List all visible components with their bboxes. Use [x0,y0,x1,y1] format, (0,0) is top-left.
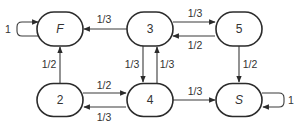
arrow-icon [17,22,38,36]
transition-S-to-S: 1 [262,93,294,107]
state-label: 3 [147,22,154,36]
transition-probability-label: 1 [288,94,294,106]
state-node-2: 2 [37,84,83,117]
state-label: 4 [147,93,154,107]
transition-3-to-F: 1/3 [84,13,127,29]
transition-probability-label: 1/2 [243,58,258,70]
transition-5-to-S: 1/2 [239,46,257,82]
state-node-5: 5 [216,12,262,46]
state-node-F: F [37,12,83,46]
state-label: 5 [236,22,243,36]
transition-probability-label: 1/3 [160,58,175,70]
transition-probability-label: 1/3 [97,13,112,25]
arrow-icon [262,93,284,107]
transition-probability-label: 1/3 [97,111,112,123]
transition-probability-label: 1/3 [188,7,203,19]
state-label: S [235,93,243,107]
state-label: 2 [57,93,64,107]
transition-probability-label: 1/2 [42,58,57,70]
transition-3-to-5: 1/3 [173,7,215,22]
transition-4-to-2: 1/3 [84,107,126,123]
transition-probability-label: 1/3 [125,58,140,70]
transition-probability-label: 1 [5,23,11,35]
transition-2-to-F: 1/2 [42,47,60,83]
state-diagram: 11/31/31/21/31/31/21/21/31/21/31 F3524S [0,0,308,128]
state-label: F [56,22,64,36]
transition-3-to-4: 1/3 [125,46,143,82]
transition-probability-label: 1/2 [188,39,203,51]
transition-probability-label: 1/3 [188,85,203,97]
transition-2-to-4: 1/2 [83,79,126,93]
transition-4-to-S: 1/3 [173,85,215,100]
state-node-S: S [216,84,262,117]
transition-4-to-3: 1/3 [157,47,174,83]
transition-F-to-F: 1 [5,22,38,36]
transition-5-to-3: 1/2 [173,36,215,51]
transition-probability-label: 1/2 [97,79,112,91]
state-node-3: 3 [127,12,173,46]
state-node-4: 4 [127,84,173,117]
states: F3524S [37,12,262,117]
